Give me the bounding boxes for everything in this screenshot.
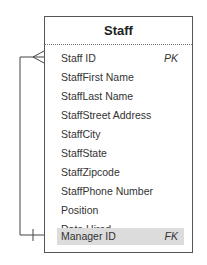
attribute-row: StaffState [57, 145, 184, 162]
attribute-name: StaffLast Name [61, 90, 133, 102]
attribute-name: StaffState [61, 147, 107, 159]
attribute-name: StaffStreet Address [61, 109, 151, 121]
attribute-name: Manager ID [61, 230, 116, 242]
key-badge: PK [164, 50, 178, 67]
attribute-name: Staff ID [61, 52, 96, 64]
attribute-name: StaffCity [61, 128, 101, 140]
attribute-row: StaffPhone Number [57, 183, 184, 200]
attribute-row: StaffFirst Name [57, 69, 184, 86]
attribute-row: Staff IDPK [57, 50, 184, 67]
attribute-name: StaffFirst Name [61, 71, 134, 83]
attribute-row: StaffStreet Address [57, 107, 184, 124]
attribute-name: Position [61, 204, 98, 216]
key-badge: FK [165, 228, 178, 245]
attribute-name: StaffPhone Number [61, 185, 153, 197]
attribute-row: StaffCity [57, 126, 184, 143]
crows-foot-icon [33, 51, 44, 63]
attribute-row-highlighted: Manager IDFK [57, 228, 184, 245]
attribute-row: StaffLast Name [57, 88, 184, 105]
entity-title: Staff [45, 17, 192, 44]
attribute-name: StaffZipcode [61, 166, 120, 178]
staff-entity: Staff Staff IDPK StaffFirst Name StaffLa… [44, 16, 193, 253]
attribute-row: StaffZipcode [57, 164, 184, 181]
attribute-row: Position [57, 202, 184, 219]
title-separator [45, 44, 192, 45]
